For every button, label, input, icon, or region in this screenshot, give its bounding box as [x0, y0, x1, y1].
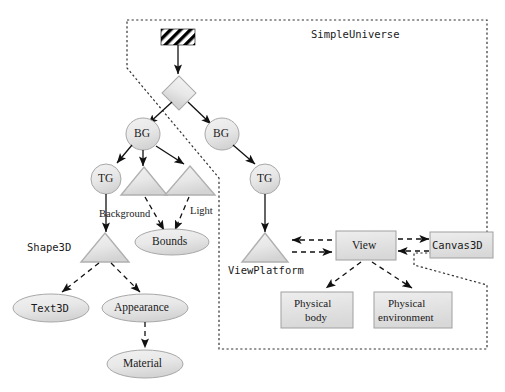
tg-right-label: TG: [257, 172, 272, 184]
edge-bgleft-to-light-triangle: [156, 146, 184, 164]
edge-view-to-physical-body: [326, 262, 361, 288]
viewplatform-label: ViewPlatform: [228, 264, 304, 276]
bounds-label: Bounds: [152, 235, 187, 247]
appearance-label: Appearance: [114, 301, 169, 313]
boundary-label-simpleuniverse: SimpleUniverse: [311, 28, 400, 40]
tg-left-label: TG: [98, 172, 113, 184]
edge-light-to-bounds: [175, 197, 189, 230]
shape3d-label: Shape3D: [27, 241, 71, 253]
physical-body-label-line1: Physical: [294, 297, 331, 309]
edge-bgright-to-tgright: [233, 145, 255, 164]
shape3d-triangle-node: [81, 233, 129, 262]
physical-environment-label-line2: environment: [378, 311, 434, 323]
diagram-svg: [0, 0, 505, 392]
edge-label-background: Background: [99, 208, 150, 219]
material-label: Material: [123, 357, 162, 369]
bg-right-label: BG: [213, 127, 229, 139]
edge-shape3d-to-text3d: [62, 263, 99, 292]
diagram-canvas: SimpleUniverse BG BG TG TG Background Li…: [0, 0, 505, 392]
viewplatform-triangle-node: [242, 233, 288, 262]
bg-left-label: BG: [134, 127, 150, 139]
edge-shape3d-to-appearance: [111, 263, 140, 292]
light-triangle-node: [165, 166, 215, 195]
edge-bgleft-to-tgleft: [117, 145, 132, 163]
edge-locale-to-bg-right: [188, 102, 211, 124]
physical-body-label-line2: body: [305, 311, 327, 323]
view-label: View: [352, 239, 376, 251]
physical-environment-label-line1: Physical: [388, 297, 425, 309]
canvas3d-label: Canvas3D: [432, 239, 483, 251]
edge-label-light: Light: [190, 205, 213, 216]
virtual-universe-hatched-node: [161, 29, 195, 45]
edge-view-to-physical-environment: [372, 262, 412, 288]
text3d-label: Text3D: [31, 302, 69, 314]
background-triangle-node: [121, 167, 167, 195]
